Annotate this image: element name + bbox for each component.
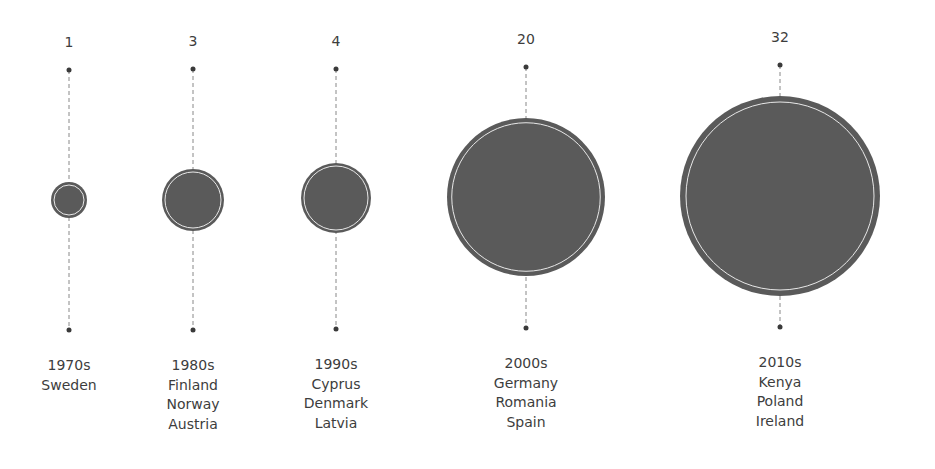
decade-label: 1970s xyxy=(0,356,139,376)
country-label: Sweden xyxy=(0,376,139,396)
country-label: Germany xyxy=(456,374,596,394)
bubble-column-1980s xyxy=(162,67,224,333)
country-label: Norway xyxy=(123,395,263,415)
value-label: 3 xyxy=(163,33,223,49)
bubble xyxy=(301,163,371,233)
value-label: 1 xyxy=(39,34,99,50)
value-label: 20 xyxy=(496,31,556,47)
stem-top-dot xyxy=(524,65,529,70)
decade-label-block: 1990sCyprusDenmarkLatvia xyxy=(266,355,406,433)
bubble xyxy=(162,169,224,231)
country-label: Romania xyxy=(456,393,596,413)
bubble-column-1970s xyxy=(51,68,87,333)
country-label: Kenya xyxy=(710,373,850,393)
stem-bottom-dot xyxy=(334,327,339,332)
decade-label-block: 1980sFinlandNorwayAustria xyxy=(123,356,263,434)
country-label: Austria xyxy=(123,415,263,435)
value-label: 4 xyxy=(306,33,366,49)
value-label: 32 xyxy=(750,29,810,45)
country-label: Finland xyxy=(123,376,263,396)
bubble xyxy=(51,182,87,218)
bubble-column-1990s xyxy=(301,67,371,332)
decade-label-block: 2010sKenyaPolandIreland xyxy=(710,353,850,431)
stem-top-dot xyxy=(334,67,339,72)
stem-top-dot xyxy=(191,67,196,72)
stem-top-dot xyxy=(778,63,783,68)
decade-label: 1980s xyxy=(123,356,263,376)
stem-bottom-dot xyxy=(778,325,783,330)
country-label: Spain xyxy=(456,413,596,433)
decade-label: 2000s xyxy=(456,354,596,374)
stem-bottom-dot xyxy=(67,328,72,333)
country-label: Ireland xyxy=(710,412,850,432)
bubble xyxy=(447,118,605,276)
stem-bottom-dot xyxy=(191,328,196,333)
country-label: Cyprus xyxy=(266,375,406,395)
decade-label-block: 2000sGermanyRomaniaSpain xyxy=(456,354,596,432)
decade-label: 1990s xyxy=(266,355,406,375)
bubble-column-2000s xyxy=(447,65,605,331)
country-label: Denmark xyxy=(266,394,406,414)
bubble-column-2010s xyxy=(680,63,880,330)
decade-label-block: 1970sSweden xyxy=(0,356,139,395)
country-label: Poland xyxy=(710,392,850,412)
stem-top-dot xyxy=(67,68,72,73)
stem-bottom-dot xyxy=(524,326,529,331)
decade-label: 2010s xyxy=(710,353,850,373)
country-label: Latvia xyxy=(266,414,406,434)
bubble xyxy=(680,96,880,296)
